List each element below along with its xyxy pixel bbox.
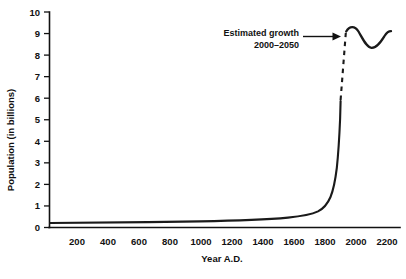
y-axis-title: Population (in billions) [5,89,16,191]
y-tick-label-2: 2 [35,179,40,190]
annotation-line-2: 2000–2050 [254,40,299,50]
x-tick-label-1000: 1000 [190,236,211,247]
annotation-line-1: Estimated growth [223,28,299,38]
x-tick-label-1800: 1800 [314,236,335,247]
x-tick-label-800: 800 [162,236,178,247]
annotation-arrow-head-icon [333,33,342,41]
x-tick-label-2000: 2000 [345,236,366,247]
x-axis-tick-labels: 200 400 600 800 1000 1200 1400 1600 1800… [69,236,398,247]
y-tick-label-1: 1 [35,200,41,211]
x-tick-label-600: 600 [131,236,147,247]
x-tick-label-1600: 1600 [283,236,304,247]
x-tick-label-1200: 1200 [221,236,242,247]
axes-group [49,12,400,228]
x-tick-label-200: 200 [69,236,85,247]
estimated-growth-annotation: Estimated growth 2000–2050 [223,28,341,50]
y-tick-label-4: 4 [35,136,41,147]
historical-population-curve [50,101,341,223]
y-tick-label-0: 0 [35,222,40,233]
chart-canvas: 10 9 8 7 6 5 4 3 2 1 0 200 400 600 800 1… [0,0,406,279]
y-tick-label-6: 6 [35,93,40,104]
x-tick-label-400: 400 [100,236,116,247]
y-tick-label-5: 5 [35,114,41,125]
y-tick-label-9: 9 [35,28,40,39]
x-tick-label-2200: 2200 [376,236,397,247]
y-axis-ticks [44,12,49,228]
y-axis-tick-labels: 10 9 8 7 6 5 4 3 2 1 0 [29,7,40,234]
estimated-growth-dashed-curve [341,33,346,100]
x-tick-label-1400: 1400 [252,236,273,247]
y-tick-label-3: 3 [35,157,40,168]
y-tick-label-7: 7 [35,71,40,82]
population-growth-chart: 10 9 8 7 6 5 4 3 2 1 0 200 400 600 800 1… [0,0,406,279]
y-tick-label-8: 8 [35,50,40,61]
estimated-growth-fluctuation-curve [346,27,391,48]
x-axis-title: Year A.D. [201,253,242,264]
y-tick-label-10: 10 [29,7,40,18]
